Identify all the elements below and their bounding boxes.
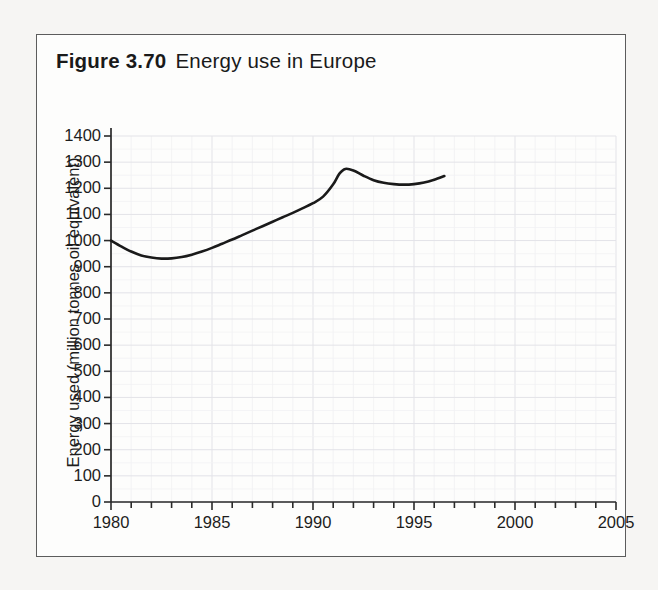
y-tick-label: 900 <box>49 257 101 276</box>
y-tick-label: 300 <box>49 414 101 433</box>
y-tick-label: 600 <box>49 335 101 354</box>
y-tick-label: 1300 <box>49 152 101 171</box>
y-tick-label: 1000 <box>49 231 101 250</box>
x-tick-label: 1980 <box>81 513 141 532</box>
x-tick-label: 1985 <box>182 513 242 532</box>
x-tick-label: 1990 <box>283 513 343 532</box>
x-tick-label: 2000 <box>485 513 545 532</box>
y-tick-label: 1200 <box>49 178 101 197</box>
y-tick-label: 500 <box>49 361 101 380</box>
axis-lines <box>111 128 616 502</box>
y-tick-label: 700 <box>49 309 101 328</box>
chart-plot-area: Energy used (million tonnes oil equivale… <box>37 35 627 558</box>
y-tick-label: 200 <box>49 440 101 459</box>
data-series-line <box>111 169 444 259</box>
figure-page: Figure 3.70Energy use in Europe Energy u… <box>0 0 658 590</box>
x-tick-label: 1995 <box>384 513 444 532</box>
line-chart <box>37 35 627 558</box>
y-tick-label: 1100 <box>49 204 101 223</box>
figure-frame: Figure 3.70Energy use in Europe Energy u… <box>36 34 626 557</box>
y-tick-label: 100 <box>49 466 101 485</box>
y-tick-label: 400 <box>49 387 101 406</box>
y-tick-label: 1400 <box>49 126 101 145</box>
gridlines <box>111 136 616 502</box>
y-tick-label: 800 <box>49 283 101 302</box>
x-tick-label: 2005 <box>586 513 646 532</box>
y-tick-label: 0 <box>49 492 101 511</box>
axis-ticks <box>104 136 616 510</box>
